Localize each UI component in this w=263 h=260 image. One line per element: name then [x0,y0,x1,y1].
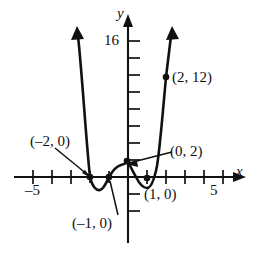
leader-neg1 [110,181,118,215]
curve-left-arrowhead [71,26,84,40]
point-dot-one [144,175,151,182]
annotation-neg2-0: (–2, 0) [30,134,70,149]
annotation-1-0: (1, 0) [144,187,177,202]
y-tick-label-16: 16 [104,33,119,48]
y-axis-ticks [128,41,140,211]
x-axis-label: x [236,164,243,179]
annotation-neg1-0: (–1, 0) [72,216,112,231]
x-tick-label-5: 5 [210,183,218,198]
x-tick-label-neg5: –5 [25,183,40,198]
annotation-0-2: (0, 2) [170,144,203,159]
point-dot-neg1 [106,174,113,181]
graph-figure: y x 16 –5 5 (–2, 0) (–1, 0) (1, 0) (0, 2… [0,0,263,260]
graph-canvas [0,0,263,260]
polynomial-curve [78,36,171,190]
leader-yint [129,152,172,163]
point-dot-two-twelve [163,74,170,81]
y-axis-arrowhead [123,14,133,27]
annotation-2-12: (2, 12) [172,70,212,85]
curve-right-arrowhead [166,26,179,40]
y-axis-label: y [117,6,124,21]
